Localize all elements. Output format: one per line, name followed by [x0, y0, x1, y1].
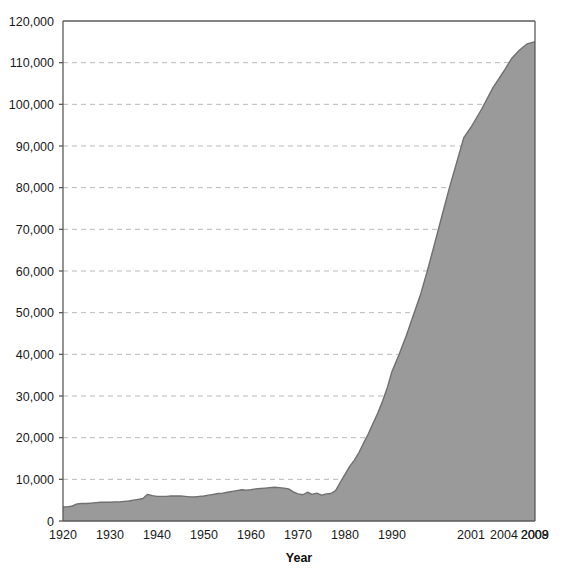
y-tick-label: 60,000: [16, 265, 54, 279]
y-tick-label: 10,000: [16, 473, 54, 487]
y-tick-label: 90,000: [16, 140, 54, 154]
area-chart: 010,00020,00030,00040,00050,00060,00070,…: [0, 0, 567, 572]
y-tick-label: 110,000: [10, 56, 54, 70]
x-tick-label: 1950: [190, 528, 218, 542]
area-fill: [63, 42, 535, 521]
y-tick-labels-group: 010,00020,00030,00040,00050,00060,00070,…: [9, 15, 54, 529]
x-tick-label: 1990: [378, 528, 406, 542]
x-tick-label: 1920: [49, 528, 77, 542]
y-tick-label: 120,000: [9, 15, 54, 29]
y-tick-label: 40,000: [16, 348, 54, 362]
x-tick-label: 2001: [457, 528, 485, 542]
y-tick-label: 100,000: [9, 98, 54, 112]
data-area-group: [63, 42, 535, 521]
y-tick-label: 70,000: [16, 223, 54, 237]
y-tick-label: 30,000: [16, 390, 54, 404]
y-tick-label: 0: [47, 515, 54, 529]
x-tick-label: 1940: [143, 528, 171, 542]
x-tick-label: 1930: [96, 528, 124, 542]
x-tick-label: 2004: [490, 528, 518, 542]
x-tick-label: 2009: [521, 528, 549, 542]
chart-container: 010,00020,00030,00040,00050,00060,00070,…: [0, 0, 567, 572]
x-tick-label: 1980: [331, 528, 359, 542]
y-tick-label: 20,000: [16, 431, 54, 445]
x-tick-label: 1960: [237, 528, 265, 542]
x-tick-label: 1970: [284, 528, 312, 542]
y-tick-label: 80,000: [16, 181, 54, 195]
x-axis-title: Year: [286, 551, 313, 565]
x-tick-labels-group: 1920193019401950196019701980199020012004…: [49, 528, 549, 542]
y-tick-label: 50,000: [16, 306, 54, 320]
